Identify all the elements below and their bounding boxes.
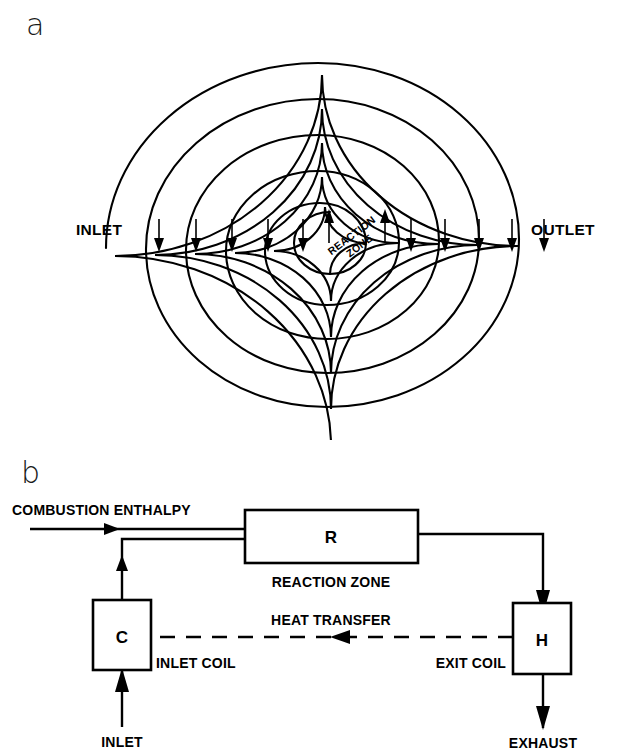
flow-arrow-up [380,209,390,243]
block-h-label: H [536,631,548,650]
combustion-enthalpy-label: COMBUSTION ENTHALPY [12,502,191,518]
block-c-label: C [116,628,128,647]
outlet-label: OUTLET [531,221,595,238]
edge-h-to-exhaust [536,674,550,730]
edge-combustion-enthalpy [30,523,245,535]
heat-transfer-label: HEAT TRANSFER [271,612,391,628]
block-h[interactable]: H [513,603,571,674]
edge-inlet-to-c [115,668,129,727]
block-c[interactable]: C [93,600,151,670]
inlet-flow-label: INLET [101,734,143,750]
exhaust-flow-label: EXHAUST [509,735,578,751]
panel-b-letter: b [21,458,40,488]
block-flow-drawing: R REACTION ZONE C INLET COIL H EXIT COIL… [0,440,641,753]
coil-spiral-arm-outlet [115,75,518,440]
block-r-label: R [325,528,337,547]
spiral-coil-drawing: INLET OUTLET REACTION ZONE [0,0,641,440]
panel-a: a [0,0,641,440]
block-r[interactable]: R [245,510,418,563]
block-h-caption: EXIT COIL [436,655,506,671]
flow-arrow-down [298,219,308,252]
flow-arrow-down [191,219,201,252]
flow-arrow-down [474,219,484,252]
block-r-caption: REACTION ZONE [272,574,391,590]
block-c-caption: INLET COIL [156,655,236,671]
inlet-label: INLET [76,221,123,238]
panel-b: R REACTION ZONE C INLET COIL H EXIT COIL… [0,440,641,753]
figure-root: a [0,0,641,753]
flow-arrow-down [154,219,164,252]
edge-heat-transfer [148,630,513,644]
